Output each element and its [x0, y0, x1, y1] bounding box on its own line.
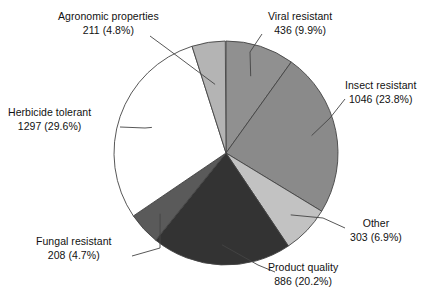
slice-label-agronomic-properties: Agronomic properties 211 (4.8%)	[58, 10, 159, 37]
slice-label-name: Other	[350, 217, 402, 231]
slice-label-other: Other 303 (6.9%)	[350, 217, 402, 244]
pie-slices-group	[114, 41, 338, 265]
slice-label-insect-resistant: Insect resistant 1046 (23.8%)	[345, 79, 416, 106]
slice-label-value: 886 (20.2%)	[268, 275, 338, 289]
slice-label-viral-resistant: Viral resistant 436 (9.9%)	[268, 10, 332, 37]
slice-label-value: 1297 (29.6%)	[8, 120, 91, 134]
pie-chart-figure: Agronomic properties 211 (4.8%) Viral re…	[0, 0, 433, 299]
slice-label-name: Fungal resistant	[36, 235, 112, 249]
slice-label-name: Agronomic properties	[58, 10, 159, 24]
slice-label-value: 208 (4.7%)	[36, 249, 112, 263]
slice-label-value: 1046 (23.8%)	[345, 93, 416, 107]
slice-label-fungal-resistant: Fungal resistant 208 (4.7%)	[36, 235, 112, 262]
slice-label-name: Product quality	[268, 261, 338, 275]
slice-label-product-quality: Product quality 886 (20.2%)	[268, 261, 338, 288]
slice-label-name: Viral resistant	[268, 10, 332, 24]
slice-label-value: 303 (6.9%)	[350, 231, 402, 245]
slice-label-name: Insect resistant	[345, 79, 416, 93]
slice-label-name: Herbicide tolerant	[8, 106, 91, 120]
slice-label-value: 211 (4.8%)	[58, 24, 159, 38]
slice-label-herbicide-tolerant: Herbicide tolerant 1297 (29.6%)	[8, 106, 91, 133]
slice-label-value: 436 (9.9%)	[268, 24, 332, 38]
